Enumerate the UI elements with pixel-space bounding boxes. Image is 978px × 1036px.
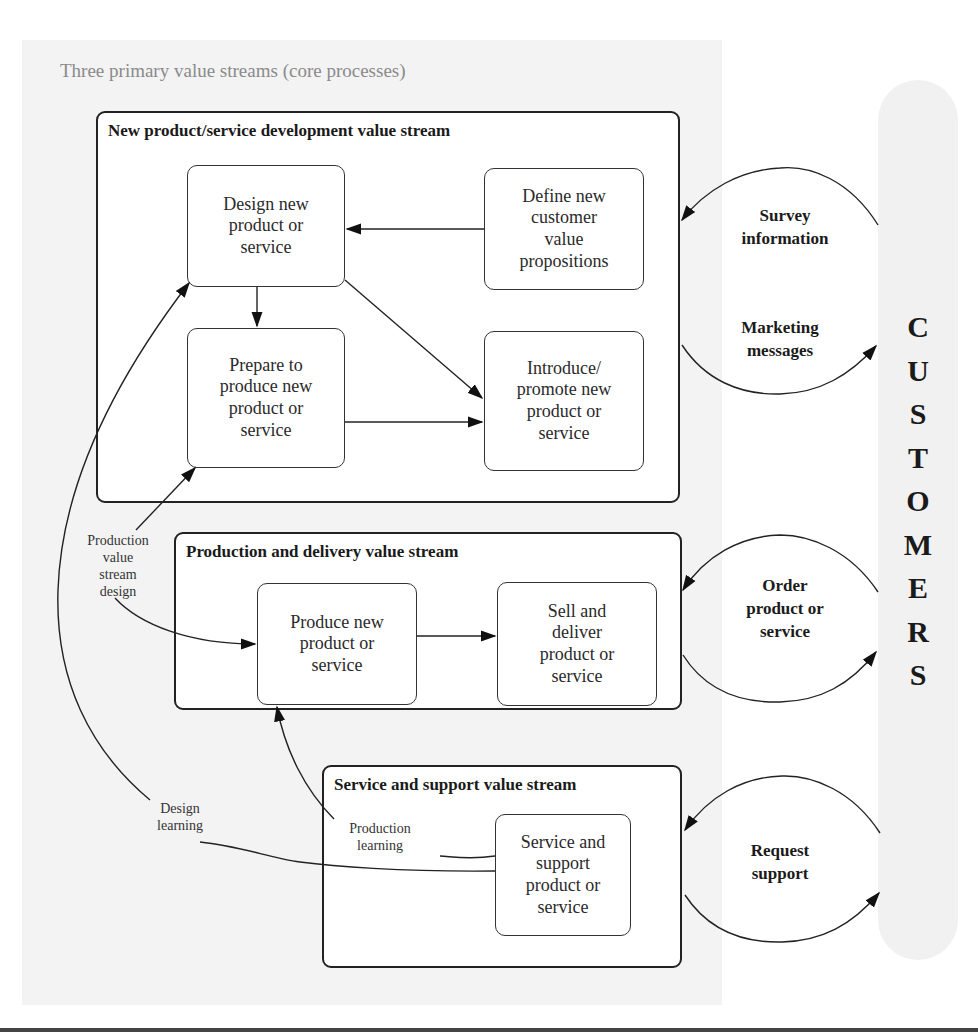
label-request-support: Request support bbox=[710, 840, 850, 886]
customers-letter: E bbox=[880, 566, 956, 610]
development-stream-title: New product/service development value st… bbox=[108, 121, 450, 141]
customers-label: C U S T O M E R S bbox=[880, 305, 956, 697]
node-introduce-promote[interactable]: Introduce/ promote new product or servic… bbox=[484, 331, 644, 471]
customers-letter: U bbox=[880, 349, 956, 393]
customers-letter: S bbox=[880, 392, 956, 436]
diagram-canvas: Three primary value streams (core proces… bbox=[0, 0, 978, 1036]
customers-letter: O bbox=[880, 479, 956, 523]
label-survey-information: Survey information bbox=[715, 205, 855, 251]
node-define-propositions[interactable]: Define new customer value propositions bbox=[484, 168, 644, 290]
label-design-learning: Design learning bbox=[130, 800, 230, 834]
label-marketing-messages: Marketing messages bbox=[710, 317, 850, 363]
label-production-learning: Production learning bbox=[330, 820, 430, 854]
node-design-new[interactable]: Design new product or service bbox=[187, 165, 345, 287]
customers-letter: S bbox=[880, 653, 956, 697]
node-service-support[interactable]: Service and support product or service bbox=[495, 814, 631, 936]
customers-letter: T bbox=[880, 436, 956, 480]
service-stream-title: Service and support value stream bbox=[334, 775, 576, 795]
customers-letter: C bbox=[880, 305, 956, 349]
customers-letter: M bbox=[880, 523, 956, 567]
label-order-product: Order product or service bbox=[715, 575, 855, 644]
node-sell-deliver[interactable]: Sell and deliver product or service bbox=[497, 582, 657, 706]
production-stream-title: Production and delivery value stream bbox=[186, 542, 458, 562]
node-prepare-produce[interactable]: Prepare to produce new product or servic… bbox=[187, 328, 345, 468]
page-title: Three primary value streams (core proces… bbox=[60, 60, 406, 82]
node-produce-new[interactable]: Produce new product or service bbox=[257, 583, 417, 705]
bottom-rule bbox=[0, 1028, 978, 1032]
customers-letter: R bbox=[880, 610, 956, 654]
label-production-value-stream-design: Production value stream design bbox=[68, 532, 168, 600]
